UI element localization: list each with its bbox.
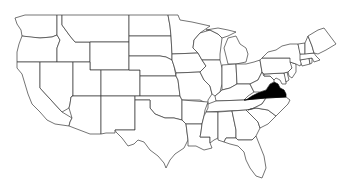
state-colorado[interactable]	[101, 70, 140, 96]
state-arizona[interactable]	[69, 96, 101, 134]
state-kansas[interactable]	[140, 76, 180, 96]
state-washington[interactable]	[15, 15, 57, 38]
state-florida[interactable]	[224, 136, 266, 178]
us-map-svg	[0, 0, 348, 187]
state-north-dakota[interactable]	[129, 15, 171, 36]
state-montana[interactable]	[62, 15, 129, 42]
state-oregon[interactable]	[17, 35, 60, 62]
us-map: Contiguous United States	[0, 0, 348, 187]
state-wyoming[interactable]	[90, 42, 129, 70]
state-new-mexico[interactable]	[101, 96, 135, 134]
